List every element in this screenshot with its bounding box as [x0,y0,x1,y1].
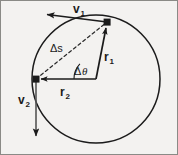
label-delta-theta-symbol: θ [82,65,88,77]
label-v1-subscript: 1 [81,9,86,18]
label-v1: v [73,2,80,16]
label-delta-s: Δs [50,42,63,54]
circular-motion-figure: v 1 Δs r 1 Δ θ r 2 v 2 [0,0,178,155]
point-marker-1 [104,19,111,26]
label-v2-subscript: 2 [26,100,31,109]
label-delta-theta-delta: Δ [74,65,82,77]
label-r1-subscript: 1 [110,57,115,66]
label-r2: r [60,85,65,99]
label-r1: r [104,50,109,64]
label-v2: v [18,93,25,107]
point-marker-2 [33,76,40,83]
label-r2-subscript: 2 [66,92,71,101]
diagram-canvas: v 1 Δs r 1 Δ θ r 2 v 2 [1,1,178,155]
chord-delta-s-line [36,22,107,79]
